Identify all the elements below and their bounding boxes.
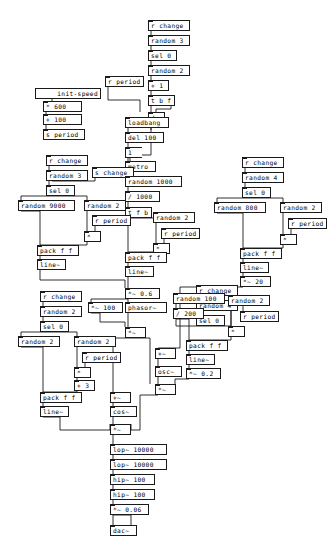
object-box-600[interactable]: * 600 <box>43 101 82 112</box>
object-box-[interactable]: *~ <box>125 327 146 338</box>
box-label: line~ <box>243 263 263 272</box>
object-box-del-100[interactable]: del 100 <box>125 132 164 143</box>
object-box-r-period[interactable]: r period <box>82 352 121 363</box>
object-box-pack-f-f[interactable]: pack f f <box>37 245 79 256</box>
object-box-[interactable]: * <box>280 234 297 245</box>
object-box-r-period[interactable]: r period <box>92 215 131 226</box>
box-label: / 200 <box>176 309 196 318</box>
box-label: random 800 <box>217 203 258 212</box>
object-box-pack-f-f[interactable]: pack f f <box>125 252 167 263</box>
object-box-line[interactable]: line~ <box>40 406 69 417</box>
object-box-200[interactable]: / 200 <box>173 308 204 319</box>
object-box-pack-f-f[interactable]: pack f f <box>186 340 228 351</box>
object-box-r-period[interactable]: r period <box>288 218 327 229</box>
box-label: * <box>231 327 235 336</box>
object-box-osc[interactable]: osc~ <box>155 366 182 377</box>
object-box-line[interactable]: line~ <box>186 354 215 365</box>
object-box-line[interactable]: line~ <box>240 262 269 273</box>
object-box-random-2[interactable]: random 2 <box>74 336 116 347</box>
object-box-r-period[interactable]: r period <box>161 228 200 239</box>
object-box-r-change[interactable]: r change <box>46 155 88 166</box>
box-label: t f b <box>128 208 148 217</box>
object-box-random-800[interactable]: random 800 <box>214 202 266 213</box>
object-box-r-change[interactable]: r change <box>242 157 284 168</box>
object-box-s-period[interactable]: s period <box>43 129 85 140</box>
patch-cord <box>175 379 189 384</box>
object-box-random-3[interactable]: random 3 <box>46 170 88 181</box>
box-label: s period <box>46 130 79 139</box>
object-box-line[interactable]: line~ <box>37 259 66 270</box>
object-box-random-2[interactable]: random 2 <box>18 336 60 347</box>
object-box-[interactable]: * <box>84 231 101 242</box>
box-label: del 100 <box>128 133 157 142</box>
object-box-[interactable]: *~ <box>155 384 176 395</box>
object-box-lop-10000[interactable]: lop~ 10000 <box>110 459 167 470</box>
patch-cord <box>113 515 131 525</box>
object-box-sel-0[interactable]: sel 0 <box>40 321 69 332</box>
object-box-random-2[interactable]: random 2 <box>228 295 270 306</box>
box-label: r period <box>95 216 128 225</box>
object-box-sel-0[interactable]: sel 0 <box>242 187 271 198</box>
object-box-random-1000[interactable]: random 1000 <box>125 176 182 187</box>
object-box-random-2[interactable]: random 2 <box>280 202 322 213</box>
object-box-cos[interactable]: cos~ <box>110 406 137 417</box>
box-label: dac~ <box>113 526 129 535</box>
object-box-0-06[interactable]: *~ 0.06 <box>110 504 149 515</box>
object-box-random-4[interactable]: random 4 <box>242 172 284 183</box>
object-box-sel-0[interactable]: sel 0 <box>46 185 75 196</box>
object-box-0-6[interactable]: *~ 0.6 <box>125 288 160 299</box>
object-box-dac[interactable]: dac~ <box>110 525 137 536</box>
object-box-[interactable]: *~ <box>110 424 131 435</box>
box-label: / 1000 <box>128 192 152 201</box>
box-label: random 2 <box>77 337 110 346</box>
object-box-1000[interactable]: / 1000 <box>125 191 160 202</box>
object-box-100[interactable]: *~ 100 <box>88 302 123 313</box>
box-label: + 3 <box>77 381 89 390</box>
object-box-r-period[interactable]: r period <box>105 76 144 87</box>
object-box-sel-0[interactable]: sel 0 <box>148 50 177 61</box>
box-label: r period <box>164 229 197 238</box>
object-box-[interactable]: +~ <box>155 348 176 359</box>
box-label: * <box>87 232 91 241</box>
object-box-random-2[interactable]: random 2 <box>153 212 195 223</box>
object-box-random-2[interactable]: random 2 <box>148 65 190 76</box>
object-box-20[interactable]: *~ 20 <box>240 276 271 287</box>
box-label: s change <box>95 168 128 177</box>
object-box-random-100[interactable]: random 100 <box>173 293 225 304</box>
object-box-phasor[interactable]: phasor~ <box>125 302 167 313</box>
object-box-pack-f-f[interactable]: pack f f <box>240 248 282 259</box>
box-label: line~ <box>43 407 63 416</box>
box-label: + 100 <box>46 115 66 124</box>
object-box-[interactable]: +~ <box>110 392 131 403</box>
object-box-3[interactable]: + 3 <box>74 380 95 391</box>
object-box-random-3[interactable]: random 3 <box>148 35 190 46</box>
object-box-0-2[interactable]: *~ 0.2 <box>186 368 221 379</box>
pd-patch-canvas[interactable]: r changerandom 3sel 0random 2r period+ 1… <box>0 0 336 546</box>
object-box-100[interactable]: + 100 <box>43 114 82 125</box>
message-box-1[interactable]: 1 <box>125 147 142 158</box>
object-box-[interactable]: * <box>74 367 91 378</box>
object-box-r-change[interactable]: r change <box>148 20 190 31</box>
object-box-line[interactable]: line~ <box>125 266 154 277</box>
object-box-r-period[interactable]: r period <box>240 311 279 322</box>
object-box-pack-f-f[interactable]: pack f f <box>40 392 82 403</box>
object-box-[interactable]: * <box>228 326 245 337</box>
object-box-1[interactable]: + 1 <box>148 80 169 91</box>
box-label: hip~ 100 <box>113 490 146 499</box>
object-box-random-9000[interactable]: random 9000 <box>18 200 75 211</box>
object-box-hip-100[interactable]: hip~ 100 <box>110 474 155 485</box>
object-box-hip-100[interactable]: hip~ 100 <box>110 489 155 500</box>
object-box-t-b-f[interactable]: t b f <box>148 95 175 106</box>
box-label: random 3 <box>151 36 184 45</box>
object-box-random-2[interactable]: random 2 <box>84 200 126 211</box>
object-box-r-change[interactable]: r change <box>40 291 82 302</box>
box-label: random 2 <box>283 203 316 212</box>
object-box-lop-10000[interactable]: lop~ 10000 <box>110 444 167 455</box>
box-label: random 9000 <box>21 201 66 210</box>
object-box-loadbang[interactable]: loadbang <box>125 117 169 128</box>
box-label: hip~ 100 <box>113 475 146 484</box>
box-label: *~ <box>113 425 121 434</box>
object-box-random-2[interactable]: random 2 <box>40 306 82 317</box>
box-label: +~ <box>113 393 121 402</box>
patch-cord <box>128 338 150 384</box>
